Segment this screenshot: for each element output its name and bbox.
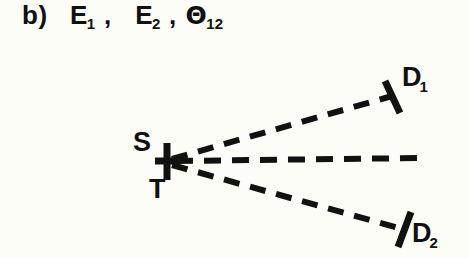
geometry-drawing	[0, 0, 469, 258]
ray-to-detector-1	[172, 96, 392, 159]
detector-1-label-base: D	[402, 62, 422, 92]
detector-1-label-sub: 1	[420, 78, 428, 95]
target-label-t: T	[149, 176, 166, 203]
detector-2-tick-icon	[398, 212, 411, 247]
ray-to-detector-2	[172, 165, 402, 229]
detector-2-label-base: D	[412, 218, 432, 248]
detector-2-label: D2	[412, 220, 440, 247]
source-label-s: S	[133, 129, 151, 156]
figure-panel: b) E1 , E2 , Θ12 S T D1 D2	[0, 0, 469, 258]
detector-1-label: D1	[402, 64, 430, 91]
detector-2-label-sub: 2	[430, 234, 438, 251]
central-axis-ray	[176, 158, 420, 161]
